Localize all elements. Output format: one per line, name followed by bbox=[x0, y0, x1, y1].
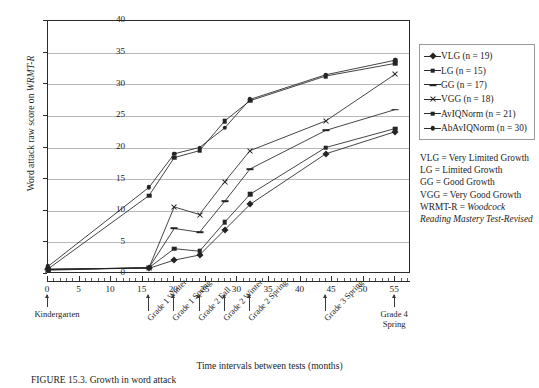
legend-label: AvIQNorm (n = 21) bbox=[441, 109, 516, 119]
y-tick-label: 5 bbox=[99, 237, 125, 246]
x-tick-minor bbox=[274, 278, 275, 281]
x-tick-minor bbox=[293, 278, 294, 281]
x-tick-minor bbox=[186, 278, 187, 281]
definition-line: LG = Limited Growth bbox=[420, 164, 538, 176]
x-tick-minor bbox=[224, 278, 225, 281]
x-tick-minor bbox=[161, 278, 162, 281]
y-tick-label: 35 bbox=[99, 47, 125, 56]
y-axis-title-italic: WRMT-R bbox=[25, 56, 36, 92]
x-tick-minor bbox=[249, 278, 250, 281]
definition-line: VGG = Very Good Growth bbox=[420, 189, 538, 201]
y-tick-label: 30 bbox=[99, 79, 125, 88]
y-tick-mark bbox=[43, 20, 47, 21]
legend-item-vgg[interactable]: VGG (n = 18) bbox=[424, 92, 531, 106]
x-tick-minor bbox=[243, 278, 244, 281]
legend-item-aviqnorm[interactable]: AvIQNorm (n = 21) bbox=[424, 107, 531, 121]
x-tick-minor bbox=[60, 278, 61, 281]
x-tick-minor bbox=[135, 278, 136, 281]
event-arrow-grade-3-spring bbox=[325, 295, 326, 311]
x-tick-minor bbox=[53, 278, 54, 281]
legend-marker-dot-icon bbox=[424, 123, 441, 133]
y-tick-mark bbox=[43, 241, 47, 242]
x-tick-minor bbox=[129, 278, 130, 281]
x-tick-major bbox=[173, 276, 174, 282]
x-tick-minor bbox=[369, 278, 370, 281]
x-tick-label: 40 bbox=[288, 285, 312, 294]
x-tick-major bbox=[394, 276, 395, 282]
legend-marker-dash2-icon bbox=[424, 109, 441, 119]
x-tick-minor bbox=[382, 278, 383, 281]
event-label-grade-4-spring: Grade 4Spring bbox=[370, 309, 418, 329]
event-arrow-grade-2-fall bbox=[199, 295, 200, 311]
x-tick-minor bbox=[98, 278, 99, 281]
x-tick-minor bbox=[218, 278, 219, 281]
event-arrow-grade-4-spring bbox=[394, 295, 395, 307]
y-tick-mark bbox=[43, 273, 47, 274]
series-line-abaviqnorm bbox=[48, 60, 395, 266]
legend-label: VGG (n = 18) bbox=[441, 94, 494, 104]
event-arrow-grade-1-winter bbox=[148, 295, 149, 311]
legend-item-abaviqnorm[interactable]: AbAvIQNorm (n = 30) bbox=[424, 121, 531, 135]
legend-label: AbAvIQNorm (n = 30) bbox=[441, 123, 527, 133]
event-label-kindergarten: Kindergarten bbox=[22, 309, 92, 319]
x-tick-major bbox=[331, 276, 332, 282]
x-tick-minor bbox=[211, 278, 212, 281]
x-tick-major bbox=[110, 276, 111, 282]
x-tick-minor bbox=[154, 278, 155, 281]
legend-label: LG (n = 15) bbox=[441, 66, 486, 76]
definition-line-wrmtr: WRMT-R = Woodcock Reading Mastery Test-R… bbox=[420, 201, 538, 225]
y-tick-mark bbox=[43, 52, 47, 53]
legend-marker-diamond-icon bbox=[424, 51, 441, 61]
y-axis-title-plain: Word attack raw score on bbox=[25, 91, 36, 191]
x-tick-major bbox=[268, 276, 269, 282]
y-axis-title: Word attack raw score on WRMT-R bbox=[25, 9, 36, 239]
legend-item-vlg[interactable]: VLG (n = 19) bbox=[424, 49, 531, 63]
x-tick-minor bbox=[319, 278, 320, 281]
y-tick-label: 0 bbox=[99, 268, 125, 277]
figure-caption-text: FIGURE 15.3. Growth in word attack bbox=[31, 374, 176, 385]
x-tick-label: 55 bbox=[382, 285, 406, 294]
y-tick-label: 15 bbox=[99, 174, 125, 183]
event-arrow-grade-1-spring bbox=[173, 295, 174, 311]
x-tick-label: 10 bbox=[98, 285, 122, 294]
x-tick-minor bbox=[230, 278, 231, 281]
definition-line: GG = Good Growth bbox=[420, 176, 538, 188]
y-tick-label: 10 bbox=[99, 205, 125, 214]
x-tick-minor bbox=[66, 278, 67, 281]
x-tick-minor bbox=[306, 278, 307, 281]
x-tick-major bbox=[79, 276, 80, 282]
legend-item-gg[interactable]: GG (n = 17) bbox=[424, 78, 531, 92]
x-tick-label: 15 bbox=[130, 285, 154, 294]
x-tick-major bbox=[236, 276, 237, 282]
legend-item-lg[interactable]: LG (n = 15) bbox=[424, 63, 531, 77]
x-tick-major bbox=[142, 276, 143, 282]
y-tick-label: 20 bbox=[99, 142, 125, 151]
event-arrow-grade-2-winter bbox=[224, 295, 225, 311]
event-arrow-grade-2-spring bbox=[249, 295, 250, 311]
y-tick-label: 40 bbox=[99, 15, 125, 24]
legend-marker-dash-icon bbox=[424, 80, 441, 90]
x-tick-minor bbox=[407, 278, 408, 281]
legend-definitions: VLG = Very Limited GrowthLG = Limited Gr… bbox=[420, 152, 538, 225]
x-tick-minor bbox=[401, 278, 402, 281]
x-tick-minor bbox=[104, 278, 105, 281]
x-tick-label: 5 bbox=[67, 285, 91, 294]
x-tick-minor bbox=[388, 278, 389, 281]
x-axis-title: Time intervals between tests (months) bbox=[0, 360, 539, 371]
x-tick-minor bbox=[167, 278, 168, 281]
x-tick-minor bbox=[85, 278, 86, 281]
legend-marker-x-icon bbox=[424, 94, 441, 104]
series-line-vlg bbox=[48, 132, 395, 269]
y-tick-mark bbox=[43, 178, 47, 179]
event-arrow-kindergarten bbox=[47, 295, 48, 307]
legend: VLG (n = 19)LG (n = 15)GG (n = 17)VGG (n… bbox=[419, 44, 535, 140]
y-tick-mark bbox=[43, 147, 47, 148]
x-tick-major bbox=[47, 276, 48, 282]
x-tick-label: 0 bbox=[35, 285, 59, 294]
y-tick-mark bbox=[43, 83, 47, 84]
x-tick-minor bbox=[375, 278, 376, 281]
x-tick-minor bbox=[123, 278, 124, 281]
x-tick-major bbox=[300, 276, 301, 282]
legend-label: GG (n = 17) bbox=[441, 80, 487, 90]
x-tick-minor bbox=[148, 278, 149, 281]
